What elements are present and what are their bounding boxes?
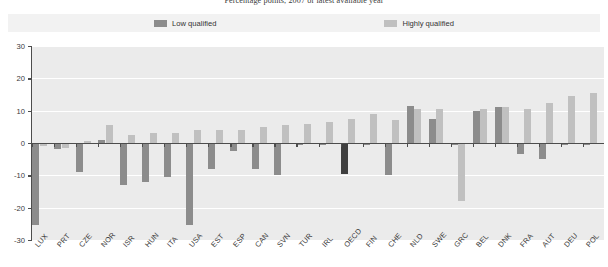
bar-high-qualified[interactable] — [480, 109, 487, 143]
x-axis-tick — [341, 143, 342, 147]
bar-low-qualified[interactable] — [120, 143, 127, 185]
bar-low-qualified[interactable] — [341, 143, 348, 174]
x-axis-tick — [517, 143, 518, 147]
bar-high-qualified[interactable] — [326, 122, 333, 143]
bar-low-qualified[interactable] — [473, 111, 480, 143]
x-axis-tick — [32, 143, 33, 147]
bar-low-qualified[interactable] — [495, 107, 502, 143]
legend-item-highly-qualified[interactable]: Highly qualified — [384, 19, 454, 28]
bar-low-qualified[interactable] — [429, 119, 436, 143]
x-axis-tick — [561, 143, 562, 147]
y-axis-label: -10 — [14, 171, 25, 180]
x-axis-tick — [363, 143, 364, 147]
bar-low-qualified[interactable] — [385, 143, 392, 175]
bar-high-qualified[interactable] — [392, 120, 399, 143]
bar-high-qualified[interactable] — [172, 133, 179, 143]
x-axis-tick — [164, 143, 165, 147]
legend-swatch-highly-qualified — [384, 20, 397, 27]
bar-high-qualified[interactable] — [106, 125, 113, 143]
legend-swatch-low-qualified — [154, 20, 167, 27]
x-axis-tick — [54, 143, 55, 147]
x-axis-tick — [252, 143, 253, 147]
x-axis-tick — [142, 143, 143, 147]
bar-high-qualified[interactable] — [590, 93, 597, 143]
bar-high-qualified[interactable] — [128, 135, 135, 143]
y-axis-label: 20 — [17, 74, 25, 83]
bar-high-qualified[interactable] — [282, 125, 289, 143]
y-axis-label: -30 — [14, 236, 25, 245]
bar-high-qualified[interactable] — [238, 130, 245, 143]
bar-low-qualified[interactable] — [274, 143, 281, 175]
bar-high-qualified[interactable] — [502, 107, 509, 143]
x-axis-tick — [296, 143, 297, 147]
x-axis-tick — [208, 143, 209, 147]
bar-high-qualified[interactable] — [150, 133, 157, 143]
bar-high-qualified[interactable] — [568, 96, 575, 143]
legend-label-highly-qualified: Highly qualified — [402, 19, 454, 28]
bar-low-qualified[interactable] — [142, 143, 149, 182]
x-axis-tick — [451, 143, 452, 147]
bar-high-qualified[interactable] — [524, 109, 531, 143]
bar-low-qualified[interactable] — [186, 143, 193, 225]
bar-low-qualified[interactable] — [76, 143, 83, 172]
bar-high-qualified[interactable] — [370, 114, 377, 143]
x-axis-tick — [319, 143, 320, 147]
x-axis-tick — [539, 143, 540, 147]
x-axis-tick — [473, 143, 474, 147]
y-axis-tick — [28, 240, 32, 241]
x-axis-tick — [186, 143, 187, 147]
x-axis-tick — [274, 143, 275, 147]
chart-legend: Low qualified Highly qualified — [8, 14, 600, 32]
bar-high-qualified[interactable] — [458, 143, 465, 201]
x-axis-tick — [385, 143, 386, 147]
x-axis-tick — [583, 143, 584, 147]
bar-high-qualified[interactable] — [348, 119, 355, 143]
x-axis-tick — [76, 143, 77, 147]
bar-high-qualified[interactable] — [216, 130, 223, 143]
bar-high-qualified[interactable] — [414, 109, 421, 143]
y-axis-label: 30 — [17, 42, 25, 51]
legend-item-low-qualified[interactable]: Low qualified — [154, 19, 216, 28]
x-axis-tick — [230, 143, 231, 147]
x-axis-tick — [98, 143, 99, 147]
chart-title: Percentage points, 2007 or latest availa… — [0, 0, 608, 5]
y-axis-label: -20 — [14, 203, 25, 212]
bar-low-qualified[interactable] — [164, 143, 171, 177]
bar-high-qualified[interactable] — [436, 109, 443, 143]
x-axis-tick — [407, 143, 408, 147]
x-axis-tick — [120, 143, 121, 147]
bar-high-qualified[interactable] — [260, 127, 267, 143]
bar-high-qualified[interactable] — [194, 130, 201, 143]
bar-chart-figure: Percentage points, 2007 or latest availa… — [0, 0, 608, 267]
x-axis-tick — [429, 143, 430, 147]
legend-label-low-qualified: Low qualified — [172, 19, 216, 28]
y-axis-label: 0 — [21, 139, 25, 148]
bar-high-qualified[interactable] — [304, 124, 311, 143]
bar-low-qualified[interactable] — [32, 143, 39, 225]
x-axis-tick — [495, 143, 496, 147]
bar-high-qualified[interactable] — [546, 103, 553, 143]
bar-low-qualified[interactable] — [407, 106, 414, 143]
y-axis-label: 10 — [17, 106, 25, 115]
plot-area: 3020100-10-20-30 — [31, 46, 604, 240]
